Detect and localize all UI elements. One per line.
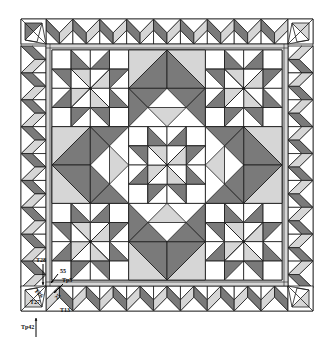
star-block-cell [129, 184, 148, 203]
star-center-dot [166, 164, 169, 167]
label-t28: T28 [36, 257, 46, 263]
star-block-cell [263, 261, 282, 280]
quilt-diagram: T2855Tp5T26T2725T13Tp42 [0, 0, 329, 349]
star-center-dot [242, 240, 245, 243]
star-block-cell [52, 203, 71, 222]
star-block-cell [110, 108, 129, 127]
star-block-cell [205, 108, 224, 127]
label-t13: T13 [60, 307, 70, 313]
star-block-cell [263, 50, 282, 69]
star-block-cell [186, 127, 205, 146]
star-block-cell [110, 203, 129, 222]
label-t27: T27 [30, 299, 40, 305]
star-center-dot [89, 87, 92, 90]
star-block-cell [110, 261, 129, 280]
arrow-tp42-head [35, 318, 38, 321]
star-block-cell [263, 203, 282, 222]
star-block-cell [205, 50, 224, 69]
label-tp5: Tp5 [62, 277, 72, 283]
star-block-cell [205, 261, 224, 280]
label-tp42: Tp42 [21, 324, 34, 330]
star-block-cell [129, 127, 148, 146]
star-block-cell [186, 184, 205, 203]
star-center-dot [242, 87, 245, 90]
star-block-cell [110, 50, 129, 69]
label-55: 55 [60, 268, 66, 274]
star-block-cell [52, 108, 71, 127]
star-block-cell [52, 50, 71, 69]
star-center-dot [89, 240, 92, 243]
star-block-cell [263, 108, 282, 127]
quilt-pattern: T2855Tp5T26T2725T13Tp42 [0, 0, 329, 349]
star-block-cell [205, 203, 224, 222]
